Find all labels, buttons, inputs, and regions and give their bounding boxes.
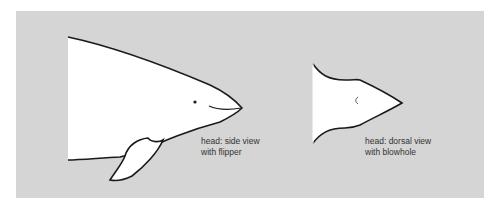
side-view-head-drawing xyxy=(68,37,242,180)
dorsal-view-caption: head: dorsal view with blowhole xyxy=(365,136,431,157)
whale-head-illustrations xyxy=(0,0,504,208)
side-view-caption-line1: head: side view xyxy=(201,136,260,147)
side-view-caption: head: side view with flipper xyxy=(201,136,260,157)
eye xyxy=(193,100,196,103)
dorsal-view-caption-line2: with blowhole xyxy=(365,147,431,158)
dorsal-view-caption-line1: head: dorsal view xyxy=(365,136,431,147)
dorsal-view-head-drawing xyxy=(313,64,402,143)
side-view-caption-line2: with flipper xyxy=(201,147,260,158)
